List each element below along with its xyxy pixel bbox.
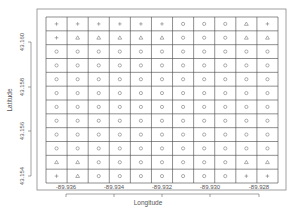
circle-marker bbox=[203, 78, 206, 81]
circle-marker bbox=[203, 161, 206, 164]
circle-marker bbox=[55, 105, 58, 108]
circle-marker bbox=[76, 91, 79, 94]
circle-marker bbox=[181, 91, 184, 94]
circle-marker bbox=[224, 36, 227, 39]
circle-marker bbox=[76, 147, 79, 150]
circle-marker bbox=[118, 161, 121, 164]
circle-marker bbox=[118, 78, 121, 81]
plus-marker bbox=[55, 22, 59, 26]
circle-marker bbox=[139, 78, 142, 81]
circle-marker bbox=[160, 119, 163, 122]
circle-marker bbox=[203, 119, 206, 122]
plus-marker bbox=[245, 174, 249, 178]
triangle-marker bbox=[244, 22, 248, 25]
circle-marker bbox=[181, 174, 184, 177]
plus-marker bbox=[139, 22, 143, 26]
triangle-marker bbox=[118, 36, 122, 39]
circle-marker bbox=[266, 64, 269, 67]
circle-marker bbox=[139, 133, 142, 136]
circle-marker bbox=[245, 64, 248, 67]
circle-marker bbox=[160, 133, 163, 136]
circle-marker bbox=[224, 147, 227, 150]
circle-marker bbox=[181, 105, 184, 108]
circle-marker bbox=[245, 147, 248, 150]
circle-marker bbox=[139, 174, 142, 177]
circle-marker bbox=[160, 91, 163, 94]
plus-marker bbox=[76, 22, 80, 26]
circle-marker bbox=[181, 50, 184, 53]
circle-marker bbox=[160, 161, 163, 164]
circle-marker bbox=[203, 91, 206, 94]
circle-marker bbox=[160, 78, 163, 81]
y-axis-label: Latitude bbox=[6, 88, 13, 112]
circle-marker bbox=[224, 22, 227, 25]
circle-marker bbox=[224, 91, 227, 94]
circle-marker bbox=[97, 78, 100, 81]
circle-marker bbox=[139, 64, 142, 67]
y-tick-label: 43.158 bbox=[19, 77, 25, 96]
circle-marker bbox=[118, 64, 121, 67]
circle-marker bbox=[97, 161, 100, 164]
circle-marker bbox=[55, 147, 58, 150]
circle-marker bbox=[139, 147, 142, 150]
circle-marker bbox=[118, 91, 121, 94]
circle-marker bbox=[266, 91, 269, 94]
circle-marker bbox=[139, 119, 142, 122]
circle-marker bbox=[139, 50, 142, 53]
plus-marker bbox=[55, 174, 59, 178]
circle-marker bbox=[203, 36, 206, 39]
circle-marker bbox=[266, 119, 269, 122]
circle-marker bbox=[76, 78, 79, 81]
circle-marker bbox=[139, 161, 142, 164]
plus-marker bbox=[160, 22, 164, 26]
circle-marker bbox=[224, 105, 227, 108]
circle-marker bbox=[160, 105, 163, 108]
circle-marker bbox=[181, 119, 184, 122]
triangle-marker bbox=[139, 36, 143, 39]
circle-marker bbox=[224, 133, 227, 136]
circle-marker bbox=[55, 50, 58, 53]
circle-marker bbox=[224, 174, 227, 177]
circle-marker bbox=[97, 105, 100, 108]
circle-marker bbox=[203, 64, 206, 67]
circle-marker bbox=[266, 105, 269, 108]
circle-marker bbox=[224, 78, 227, 81]
x-axis: -89.936-89.934-89.932-89.930-89.928 bbox=[56, 184, 270, 197]
y-axis: 43.15443.15643.15843.160 bbox=[19, 32, 31, 185]
triangle-marker bbox=[266, 160, 270, 163]
circle-marker bbox=[245, 91, 248, 94]
circle-marker bbox=[139, 91, 142, 94]
circle-marker bbox=[55, 91, 58, 94]
circle-marker bbox=[160, 64, 163, 67]
plus-marker bbox=[97, 22, 101, 26]
grid-plot: 43.15443.15643.15843.160 -89.936-89.934-… bbox=[0, 0, 297, 213]
circle-marker bbox=[55, 64, 58, 67]
circle-marker bbox=[266, 147, 269, 150]
circle-marker bbox=[181, 64, 184, 67]
triangle-marker bbox=[76, 160, 80, 163]
circle-marker bbox=[55, 78, 58, 81]
circle-marker bbox=[203, 133, 206, 136]
circle-marker bbox=[97, 147, 100, 150]
circle-marker bbox=[203, 147, 206, 150]
plus-marker bbox=[266, 174, 270, 178]
circle-marker bbox=[266, 50, 269, 53]
x-tick-label: -89.936 bbox=[56, 184, 77, 190]
circle-marker bbox=[160, 50, 163, 53]
circle-marker bbox=[76, 105, 79, 108]
circle-marker bbox=[97, 50, 100, 53]
x-tick-label: -89.930 bbox=[200, 184, 221, 190]
circle-marker bbox=[97, 64, 100, 67]
grid-lines bbox=[46, 17, 278, 183]
triangle-marker bbox=[160, 36, 164, 39]
triangle-marker bbox=[97, 36, 101, 39]
circle-marker bbox=[181, 133, 184, 136]
circle-marker bbox=[181, 78, 184, 81]
x-tick-label: -89.932 bbox=[152, 184, 173, 190]
x-tick-label: -89.928 bbox=[249, 184, 270, 190]
triangle-marker bbox=[76, 174, 80, 177]
circle-marker bbox=[97, 133, 100, 136]
triangle-marker bbox=[55, 160, 59, 163]
circle-marker bbox=[118, 147, 121, 150]
triangle-marker bbox=[244, 36, 248, 39]
